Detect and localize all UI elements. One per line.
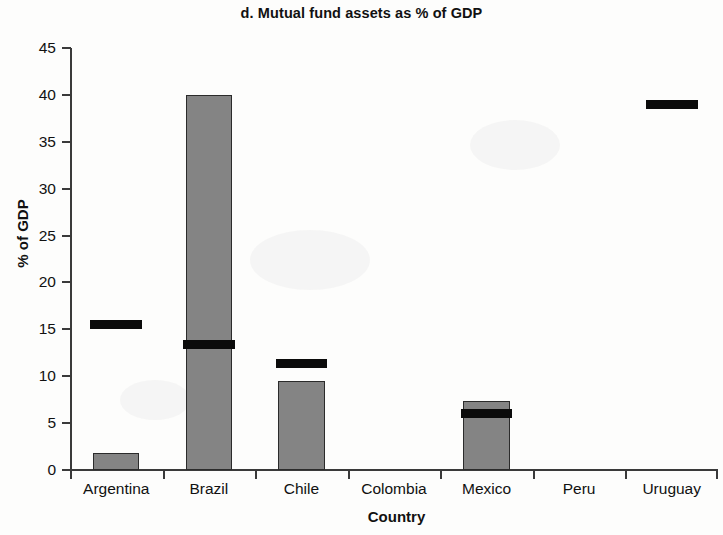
x-category-label: Colombia (348, 480, 441, 498)
y-tick-label: 45 (16, 39, 56, 57)
x-category-label: Chile (255, 480, 348, 498)
y-tick-label: 10 (16, 367, 56, 385)
y-tick-label: 20 (16, 273, 56, 291)
y-tick (62, 94, 71, 96)
y-tick (62, 235, 71, 237)
chart-title: d. Mutual fund assets as % of GDP (0, 5, 723, 21)
marker-line (461, 409, 513, 418)
y-tick-label: 0 (16, 461, 56, 479)
y-tick (62, 188, 71, 190)
y-axis-line (70, 48, 72, 470)
x-tick (533, 470, 535, 479)
marker-line (276, 359, 328, 368)
x-tick (348, 470, 350, 479)
y-tick-label: 40 (16, 86, 56, 104)
x-axis-line (70, 469, 718, 471)
bar (278, 381, 324, 470)
y-tick-label: 30 (16, 180, 56, 198)
x-category-label: Uruguay (625, 480, 718, 498)
x-tick (163, 470, 165, 479)
marker-line (646, 100, 698, 109)
x-category-label: Argentina (70, 480, 163, 498)
y-tick-label: 5 (16, 414, 56, 432)
marker-line (183, 340, 235, 349)
y-tick-label: 15 (16, 320, 56, 338)
y-tick (62, 375, 71, 377)
y-tick (62, 47, 71, 49)
y-tick (62, 422, 71, 424)
x-axis-title: Country (70, 508, 723, 525)
y-tick-label: 25 (16, 227, 56, 245)
x-tick (255, 470, 257, 479)
y-tick-label: 35 (16, 133, 56, 151)
y-tick (62, 328, 71, 330)
x-category-label: Peru (533, 480, 626, 498)
x-tick (625, 470, 627, 479)
plot-area: 051015202530354045 ArgentinaBrazilChileC… (70, 48, 718, 470)
chart-figure: d. Mutual fund assets as % of GDP % of G… (0, 0, 723, 535)
marker-line (90, 320, 142, 329)
x-tick (440, 470, 442, 479)
x-category-label: Brazil (163, 480, 256, 498)
bar (93, 453, 139, 470)
x-tick (716, 470, 718, 479)
x-category-label: Mexico (440, 480, 533, 498)
bar (186, 95, 232, 470)
y-tick (62, 141, 71, 143)
x-tick (70, 470, 72, 479)
y-tick (62, 281, 71, 283)
